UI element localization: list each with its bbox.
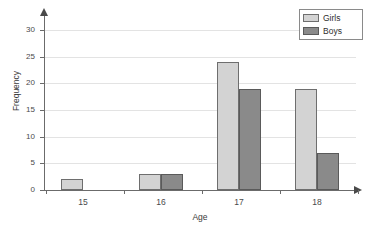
x-tick-label: 18	[297, 197, 337, 207]
legend: Girls Boys	[299, 9, 363, 40]
y-axis-ticks: 051015202530	[0, 0, 44, 233]
y-tick-label: 30	[15, 26, 35, 34]
x-tick-mark	[280, 190, 281, 194]
x-axis-title: Age	[44, 212, 356, 222]
plot-area	[44, 30, 356, 190]
x-tick-label: 16	[141, 197, 181, 207]
legend-label-girls: Girls	[323, 13, 340, 23]
y-tick-mark	[40, 110, 44, 111]
y-tick-label: 25	[15, 53, 35, 61]
y-tick-mark	[40, 137, 44, 138]
legend-item-girls: Girls	[303, 12, 359, 24]
y-tick-label: 5	[15, 159, 35, 167]
bar-group	[61, 30, 105, 190]
x-tick-mark	[124, 190, 125, 194]
bar-girls-15	[61, 179, 83, 190]
y-tick-label: 20	[15, 79, 35, 87]
y-tick-mark	[40, 83, 44, 84]
bar-boys-16	[161, 174, 183, 190]
legend-swatch-boys-icon	[303, 27, 319, 35]
bar-group	[139, 30, 183, 190]
y-tick-mark	[40, 30, 44, 31]
y-tick-mark	[40, 190, 44, 191]
bar-girls-17	[217, 62, 239, 190]
x-tick-mark	[358, 190, 359, 194]
legend-item-boys: Boys	[303, 25, 359, 37]
y-tick-mark	[40, 57, 44, 58]
bar-chart: 051015202530 15161718 Frequency Age Girl…	[0, 0, 371, 233]
y-tick-label: 10	[15, 133, 35, 141]
x-tick-mark	[46, 190, 47, 194]
bar-girls-18	[295, 89, 317, 190]
x-tick-label: 15	[63, 197, 103, 207]
bar-group	[217, 30, 261, 190]
bar-boys-18	[317, 153, 339, 190]
bar-boys-17	[239, 89, 261, 190]
legend-swatch-girls-icon	[303, 14, 319, 22]
bar-group	[295, 30, 339, 190]
y-axis-line	[44, 14, 45, 190]
y-tick-label: 15	[15, 106, 35, 114]
x-axis-line	[44, 190, 356, 191]
x-tick-mark	[202, 190, 203, 194]
y-tick-label: 0	[15, 186, 35, 194]
legend-label-boys: Boys	[323, 26, 342, 36]
y-tick-mark	[40, 163, 44, 164]
bar-girls-16	[139, 174, 161, 190]
x-tick-label: 17	[219, 197, 259, 207]
